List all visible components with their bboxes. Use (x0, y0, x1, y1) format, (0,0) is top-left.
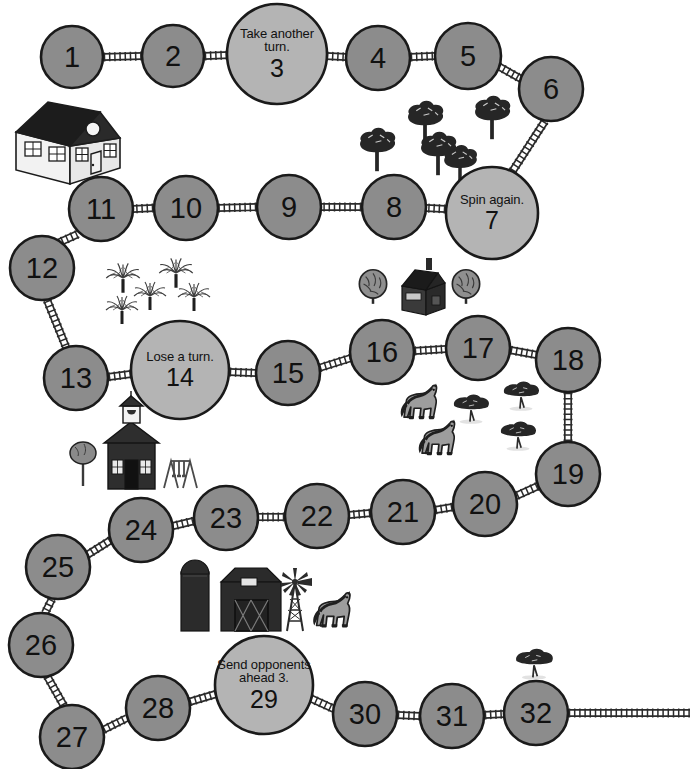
board-space-3[interactable] (227, 4, 327, 104)
fence-segment (258, 513, 285, 522)
fence-segment (107, 370, 131, 382)
fence-segment (397, 711, 420, 721)
board-space-6[interactable] (519, 57, 583, 121)
board-space-14[interactable] (131, 321, 229, 419)
fence-segment (509, 346, 538, 360)
fence-segment (564, 392, 573, 442)
board-space-13[interactable] (44, 346, 108, 410)
board-space-21[interactable] (371, 480, 435, 544)
fence-segment (133, 204, 154, 214)
fence-segment (434, 503, 453, 515)
schoolyard-tree (70, 442, 96, 486)
board-space-15[interactable] (256, 341, 320, 405)
board-space-1[interactable] (41, 26, 103, 88)
board-space-22[interactable] (285, 484, 349, 548)
barn-scene-illustration (181, 560, 351, 631)
fence-segment (484, 710, 504, 720)
silo (181, 560, 209, 631)
board-space-23[interactable] (194, 486, 258, 550)
fence-segment (349, 509, 372, 520)
fence-segment (43, 298, 70, 348)
board-space-16[interactable] (350, 320, 414, 384)
board-graphics (0, 0, 693, 769)
board-space-31[interactable] (420, 684, 484, 748)
barn (221, 568, 281, 631)
board-space-7[interactable] (446, 167, 538, 259)
board-space-2[interactable] (142, 25, 204, 87)
fence-segment (508, 119, 549, 175)
fence-segment (514, 482, 540, 500)
fence-segment (172, 517, 195, 531)
board-space-29[interactable] (215, 636, 313, 734)
fence-segment (426, 204, 446, 214)
board-space-11[interactable] (69, 177, 133, 241)
swing-set (164, 461, 197, 488)
board-space-24[interactable] (109, 498, 173, 562)
board-space-8[interactable] (362, 175, 426, 239)
board-space-25[interactable] (26, 535, 90, 599)
board-space-27[interactable] (40, 705, 104, 769)
board-space-10[interactable] (154, 176, 218, 240)
horse-pasture-illustration (401, 381, 539, 454)
board-space-17[interactable] (446, 316, 510, 380)
fence-segment (218, 203, 257, 213)
fence-segment (410, 52, 435, 62)
windmill (281, 568, 312, 631)
fence-segment (101, 714, 129, 734)
board-space-9[interactable] (257, 175, 321, 239)
palm-tree-grove-illustration (106, 258, 210, 324)
board-space-32[interactable] (504, 681, 568, 745)
board-space-26[interactable] (9, 613, 73, 677)
board-space-20[interactable] (453, 472, 517, 536)
farmhouse-illustration (16, 102, 120, 184)
fence-segment (188, 690, 218, 707)
fence-segment (414, 345, 447, 356)
board-space-5[interactable] (435, 23, 501, 89)
lone-acacia-tree-illustration (516, 649, 553, 680)
fence-segment (318, 354, 353, 373)
fence-segment (568, 709, 690, 718)
fence-segment (321, 203, 362, 212)
board-space-18[interactable] (536, 328, 600, 392)
board-space-12[interactable] (10, 236, 74, 300)
fence-segment (326, 52, 346, 62)
fence-segment (103, 52, 142, 62)
board-game-canvas: 12Take another turn.3456Spin again.78910… (0, 0, 693, 769)
fence-segment (43, 674, 68, 708)
board-space-19[interactable] (536, 442, 600, 506)
cottage-scene-illustration (359, 258, 479, 315)
board-space-28[interactable] (126, 676, 190, 740)
fence-segment (229, 368, 256, 378)
board-space-30[interactable] (333, 682, 397, 746)
board-space-4[interactable] (346, 26, 410, 90)
